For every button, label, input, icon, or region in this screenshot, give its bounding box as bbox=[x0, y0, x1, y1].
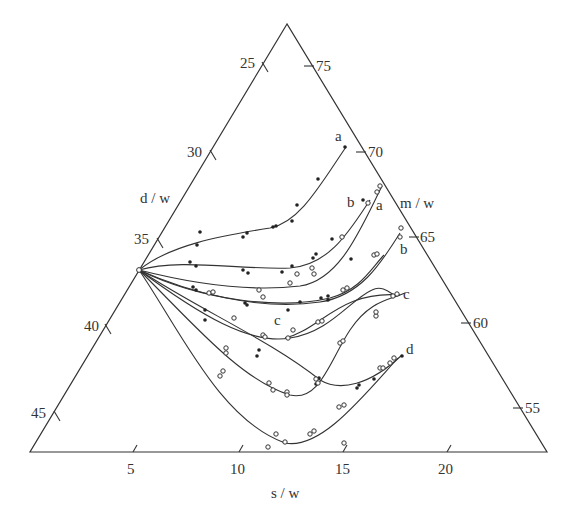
curve-b-filled bbox=[139, 200, 370, 270]
left-tick-40: 40 bbox=[84, 318, 99, 334]
label-d-filled: d bbox=[406, 341, 414, 357]
right-axis-tick-labels: 75 70 65 60 55 bbox=[316, 58, 540, 416]
bottom-tick-15: 15 bbox=[335, 461, 350, 477]
left-tick-35: 35 bbox=[134, 231, 149, 247]
bottom-axis-label: s / w bbox=[271, 485, 300, 501]
right-tick-60: 60 bbox=[473, 315, 488, 331]
curve-d-open-low bbox=[139, 270, 398, 444]
label-b-open: b bbox=[400, 241, 408, 257]
triangle-frame bbox=[30, 24, 547, 452]
bottom-tick-20: 20 bbox=[438, 461, 453, 477]
label-a-open: a bbox=[376, 197, 383, 213]
curve-d-filled bbox=[139, 270, 402, 386]
ternary-diagram: 25 30 35 40 45 d / w 75 70 65 60 55 m / … bbox=[0, 0, 574, 522]
left-axis-label: d / w bbox=[140, 190, 170, 206]
bottom-tick-10: 10 bbox=[230, 461, 245, 477]
curve-a-filled bbox=[139, 147, 346, 270]
bottom-axis-ticks bbox=[133, 445, 451, 452]
left-axis-ticks bbox=[54, 62, 268, 421]
label-a-filled: a bbox=[335, 128, 342, 144]
label-c-open: c bbox=[403, 286, 410, 302]
right-tick-75: 75 bbox=[316, 58, 331, 74]
label-b-filled: b bbox=[347, 194, 355, 210]
curves bbox=[139, 147, 405, 444]
right-axis-ticks bbox=[304, 66, 523, 408]
right-tick-65: 65 bbox=[420, 229, 435, 245]
left-tick-25: 25 bbox=[240, 55, 255, 71]
bottom-axis-tick-labels: 5 10 15 20 bbox=[127, 461, 453, 477]
left-tick-45: 45 bbox=[31, 405, 46, 421]
left-axis-tick-labels: 25 30 35 40 45 bbox=[31, 55, 255, 421]
left-tick-30: 30 bbox=[187, 144, 202, 160]
bottom-tick-5: 5 bbox=[127, 461, 135, 477]
curve-a-open bbox=[139, 186, 382, 288]
right-tick-70: 70 bbox=[368, 144, 383, 160]
curve-c-open bbox=[139, 270, 397, 339]
label-c-filled: c bbox=[274, 312, 281, 328]
right-axis-label: m / w bbox=[400, 195, 434, 211]
curve-labels: a b a b c c d bbox=[274, 128, 414, 357]
right-tick-55: 55 bbox=[525, 400, 540, 416]
